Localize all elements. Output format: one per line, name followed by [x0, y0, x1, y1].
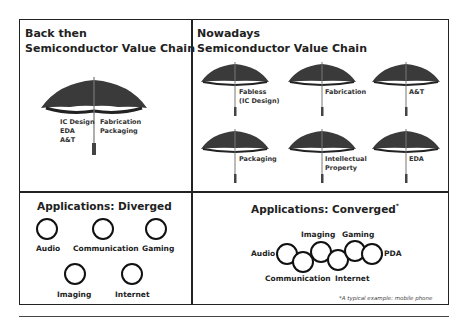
label-pda: PDA [384, 249, 402, 258]
back-then-title-line1: Back then [25, 27, 87, 41]
horizontal-divider [19, 191, 449, 193]
label-at: A&T [409, 88, 424, 97]
label-imaging: Imaging [57, 290, 91, 299]
label-gaming: Gaming [342, 230, 374, 239]
label-internet: Internet [335, 274, 370, 283]
label-property: Property [325, 164, 357, 173]
back-then-title-line2: Semiconductor Value Chain [25, 42, 195, 56]
label-ic-design: (IC Design) [239, 97, 280, 106]
footnote: *A typical example: mobile phone [339, 295, 432, 301]
label-ic-design: IC Design [60, 118, 95, 127]
label-audio: Audio [251, 249, 275, 258]
converged-title-text: Applications: Converged [251, 203, 396, 215]
circle-pda [361, 243, 383, 265]
label-imaging: Imaging [301, 230, 335, 239]
label-packaging: Packaging [100, 127, 138, 136]
diverged-title: Applications: Diverged [37, 199, 172, 213]
label-internet: Internet [115, 290, 150, 299]
label-fabless: Fabless [239, 88, 266, 97]
bottom-separator [19, 316, 449, 317]
circle-audio [36, 218, 58, 240]
label-fabrication: Fabrication [325, 88, 366, 97]
label-gaming: Gaming [142, 244, 174, 253]
circle-imaging [64, 263, 86, 285]
label-communication: Communication [73, 244, 139, 253]
label-fabrication: Fabrication [100, 118, 141, 127]
converged-title-mark: * [396, 202, 399, 209]
vertical-divider [191, 19, 193, 305]
label-audio: Audio [36, 244, 60, 253]
label-eda: EDA [60, 127, 75, 136]
nowadays-title-line1: Nowadays [197, 27, 260, 41]
umbrella-icon [370, 128, 442, 184]
label-communication: Communication [265, 274, 331, 283]
circle-communication [92, 218, 114, 240]
umbrella-icon [370, 61, 442, 117]
label-eda: EDA [409, 155, 424, 164]
circle-internet [121, 263, 143, 285]
circle-gaming [145, 218, 167, 240]
nowadays-title-line2: Semiconductor Value Chain [197, 42, 367, 56]
label-packaging: Packaging [239, 155, 277, 164]
label-at: A&T [60, 136, 75, 145]
converged-title: Applications: Converged* [251, 199, 399, 216]
label-intellectual: Intellectual [325, 155, 367, 164]
